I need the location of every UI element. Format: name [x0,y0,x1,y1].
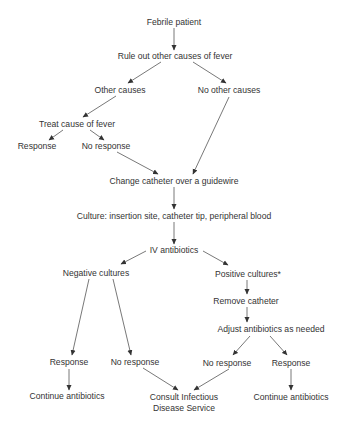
node-continue-antibiotics-right: Continue antibiotics [253,392,328,403]
node-no-response-negative: No response [111,357,160,368]
node-negative-cultures: Negative cultures [63,268,129,279]
node-treat-cause-of-fever: Treat cause of fever [39,119,115,130]
arrow-noresp2-to-consult [143,368,178,390]
node-culture: Culture: insertion site, catheter tip, p… [77,211,271,222]
node-positive-cultures: Positive cultures* [215,269,281,280]
arrow-neg-to-noresp2 [113,279,131,355]
node-no-other-causes: No other causes [198,85,261,96]
arrow-noresp3-to-consult [194,369,229,390]
arrow-treat-to-resp1 [49,130,63,140]
node-other-causes: Other causes [94,85,145,96]
arrow-iv-to-neg [121,251,146,264]
arrow-adjust-to-resp3 [270,336,287,355]
node-continue-antibiotics-left: Continue antibiotics [29,391,104,402]
node-change-catheter: Change catheter over a guidewire [110,176,239,187]
flowchart-canvas: Febrile patient Rule out other causes of… [0,0,340,421]
arrow-adjust-to-noresp3 [233,336,250,355]
node-consult-infectious-disease: Consult Infectious Disease Service [150,392,218,414]
node-response-positive: Response [272,358,311,369]
consult-line-1: Consult Infectious [150,392,218,403]
arrow-ruleout-to-nootherc [193,62,226,83]
arrow-nootherc-to-change [193,97,229,174]
arrow-iv-to-pos [203,251,228,265]
node-response-treat: Response [18,141,57,152]
node-febrile-patient: Febrile patient [147,17,201,28]
node-rule-out-other-causes: Rule out other causes of fever [118,51,233,62]
node-remove-catheter: Remove catheter [213,296,278,307]
node-no-response-treat: No response [82,141,131,152]
arrow-othercauses-to-treat [83,96,116,117]
node-no-response-positive: No response [203,358,252,369]
node-response-negative: Response [50,357,89,368]
arrow-neg-to-resp2 [72,279,89,355]
node-iv-antibiotics: IV antibiotics [150,245,199,256]
arrow-ruleout-to-othercauses [128,62,161,83]
arrow-noresp1-to-change [117,152,158,174]
node-adjust-antibiotics: Adjust antibiotics as needed [217,324,324,335]
arrow-treat-to-noresp1 [90,130,104,140]
consult-line-2: Disease Service [150,403,218,414]
